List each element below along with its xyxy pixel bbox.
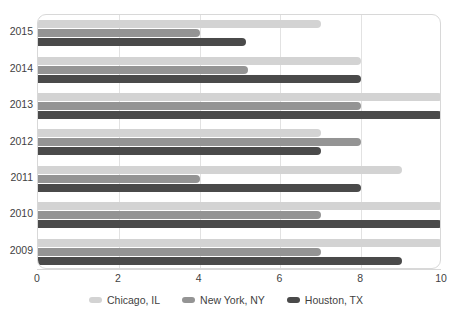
bar-2015-new-york-ny[interactable] xyxy=(38,29,200,37)
x-axis-labels: 0246810 xyxy=(0,272,452,286)
bar-group-2010 xyxy=(38,197,440,233)
bar-group-2014 xyxy=(38,51,440,87)
bar-group-2009 xyxy=(38,234,440,269)
bar-2014-chicago-il[interactable] xyxy=(38,57,361,65)
y-axis-label-2014: 2014 xyxy=(10,63,33,74)
bar-2009-new-york-ny[interactable] xyxy=(38,248,321,256)
bar-2013-chicago-il[interactable] xyxy=(38,93,441,101)
legend-swatch-houston xyxy=(287,297,300,303)
bar-2015-chicago-il[interactable] xyxy=(38,20,321,28)
bar-group-2012 xyxy=(38,124,440,160)
legend-swatch-chicago xyxy=(89,297,102,303)
bar-2010-houston-tx[interactable] xyxy=(38,220,441,228)
bar-group-2011 xyxy=(38,161,440,197)
bar-2011-chicago-il[interactable] xyxy=(38,166,402,174)
y-axis-label-2013: 2013 xyxy=(10,99,33,110)
x-axis-label-4: 4 xyxy=(196,272,202,284)
y-axis-label-2011: 2011 xyxy=(10,172,33,183)
bar-group-2013 xyxy=(38,88,440,124)
bar-2013-new-york-ny[interactable] xyxy=(38,102,361,110)
bar-2012-houston-tx[interactable] xyxy=(38,147,321,155)
x-axis-label-0: 0 xyxy=(34,272,40,284)
chart-title xyxy=(0,0,452,2)
bar-2009-chicago-il[interactable] xyxy=(38,239,441,247)
bar-2013-houston-tx[interactable] xyxy=(38,111,441,119)
bar-group-2015 xyxy=(38,15,440,51)
x-axis-label-8: 8 xyxy=(357,272,363,284)
legend-item-new-york-ny[interactable]: New York, NY xyxy=(182,294,265,306)
plot-area xyxy=(37,14,441,269)
legend-item-chicago-il[interactable]: Chicago, IL xyxy=(89,294,160,306)
bar-2010-chicago-il[interactable] xyxy=(38,202,441,210)
bar-2012-chicago-il[interactable] xyxy=(38,129,321,137)
y-axis-label-2010: 2010 xyxy=(10,208,33,219)
bar-2015-houston-tx[interactable] xyxy=(38,38,246,46)
x-axis-label-10: 10 xyxy=(435,272,447,284)
bar-2010-new-york-ny[interactable] xyxy=(38,211,321,219)
legend-label-new-york-ny: New York, NY xyxy=(200,294,265,306)
bar-2009-houston-tx[interactable] xyxy=(38,257,402,265)
bar-2014-houston-tx[interactable] xyxy=(38,75,361,83)
bar-2011-houston-tx[interactable] xyxy=(38,184,361,192)
legend-swatch-new-york xyxy=(182,297,195,303)
bar-2012-new-york-ny[interactable] xyxy=(38,138,361,146)
legend-label-houston-tx: Houston, TX xyxy=(305,294,363,306)
y-axis-labels: 2015201420132012201120102009 xyxy=(0,14,33,269)
bar-2011-new-york-ny[interactable] xyxy=(38,175,200,183)
x-axis-label-6: 6 xyxy=(276,272,282,284)
y-axis-label-2012: 2012 xyxy=(10,136,33,147)
x-axis-label-2: 2 xyxy=(115,272,121,284)
chart-legend: Chicago, ILNew York, NYHouston, TX xyxy=(0,294,452,306)
legend-item-houston-tx[interactable]: Houston, TX xyxy=(287,294,363,306)
y-axis-label-2015: 2015 xyxy=(10,26,33,37)
x-axis-line xyxy=(37,269,441,270)
legend-label-chicago-il: Chicago, IL xyxy=(107,294,160,306)
y-axis-label-2009: 2009 xyxy=(10,245,33,256)
bar-2014-new-york-ny[interactable] xyxy=(38,66,248,74)
